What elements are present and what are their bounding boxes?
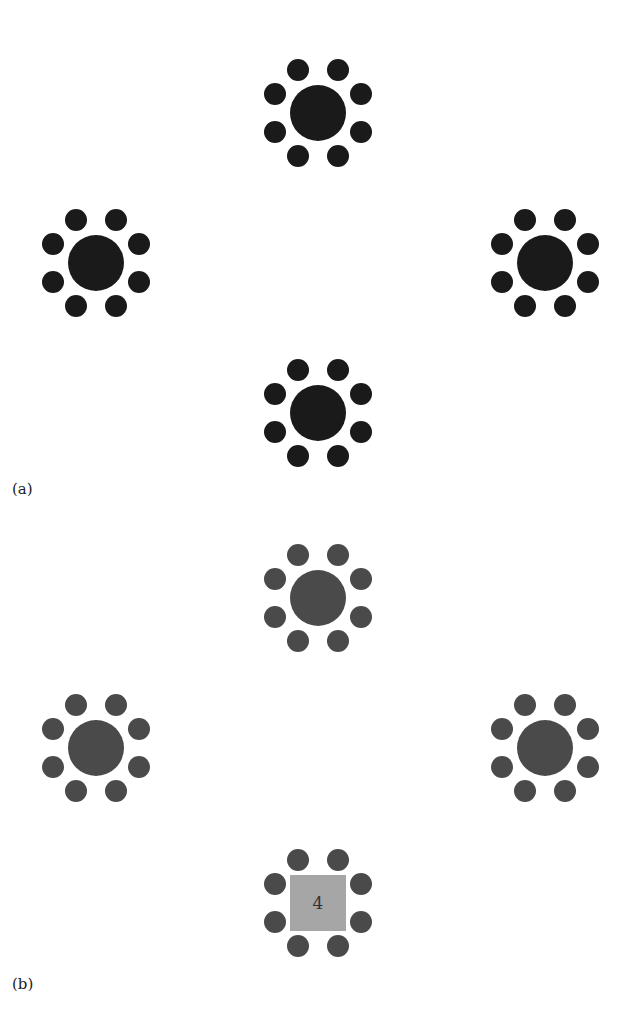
round-table	[290, 385, 346, 441]
seat-icon	[105, 295, 127, 317]
seat-icon	[327, 59, 349, 81]
panel-label: (b)	[12, 975, 33, 993]
seat-icon	[105, 694, 127, 716]
seat-icon	[554, 780, 576, 802]
seat-icon	[327, 935, 349, 957]
seat-icon	[264, 83, 286, 105]
seat-icon	[287, 935, 309, 957]
panel-label: (a)	[12, 480, 33, 498]
seat-icon	[42, 718, 64, 740]
seat-icon	[264, 606, 286, 628]
seat-icon	[554, 295, 576, 317]
table-group-a-bottom	[264, 359, 372, 467]
seat-icon	[264, 911, 286, 933]
table-group-a-left	[42, 209, 150, 317]
round-table	[68, 235, 124, 291]
seat-icon	[287, 630, 309, 652]
seat-icon	[287, 59, 309, 81]
seat-icon	[577, 233, 599, 255]
seat-icon	[350, 83, 372, 105]
seat-icon	[128, 756, 150, 778]
seat-icon	[65, 694, 87, 716]
seat-icon	[42, 756, 64, 778]
seat-icon	[350, 568, 372, 590]
seat-icon	[327, 359, 349, 381]
seat-icon	[65, 295, 87, 317]
seat-icon	[287, 544, 309, 566]
seat-icon	[491, 233, 513, 255]
seat-icon	[514, 209, 536, 231]
seat-icon	[554, 209, 576, 231]
table-group-b-right	[491, 694, 599, 802]
seat-icon	[128, 718, 150, 740]
seat-icon	[327, 544, 349, 566]
seat-icon	[264, 873, 286, 895]
seat-icon	[554, 694, 576, 716]
seat-icon	[350, 606, 372, 628]
seat-icon	[264, 383, 286, 405]
table-group-b-bottom: 4	[264, 849, 372, 957]
seat-icon	[577, 718, 599, 740]
seat-icon	[577, 756, 599, 778]
seat-icon	[350, 383, 372, 405]
seat-icon	[287, 145, 309, 167]
seat-icon	[327, 630, 349, 652]
seat-icon	[350, 911, 372, 933]
table-group-a-right	[491, 209, 599, 317]
seat-icon	[514, 780, 536, 802]
seat-icon	[264, 421, 286, 443]
seat-icon	[105, 209, 127, 231]
seat-icon	[514, 694, 536, 716]
seat-icon	[577, 271, 599, 293]
seat-icon	[491, 718, 513, 740]
round-table	[68, 720, 124, 776]
seat-icon	[327, 849, 349, 871]
seat-icon	[350, 421, 372, 443]
seat-icon	[327, 445, 349, 467]
seat-icon	[350, 873, 372, 895]
seat-icon	[42, 271, 64, 293]
seat-icon	[105, 780, 127, 802]
seating-diagram: (a)4(b)	[0, 0, 637, 1030]
seat-icon	[128, 233, 150, 255]
round-table	[290, 570, 346, 626]
panel-b: 4(b)	[12, 544, 599, 993]
panel-a: (a)	[12, 59, 599, 498]
seat-icon	[128, 271, 150, 293]
seat-icon	[287, 359, 309, 381]
seat-icon	[287, 849, 309, 871]
seat-icon	[327, 145, 349, 167]
seat-icon	[491, 756, 513, 778]
seat-icon	[42, 233, 64, 255]
seat-icon	[65, 780, 87, 802]
table-group-b-left	[42, 694, 150, 802]
table-number: 4	[313, 893, 324, 913]
table-group-a-top	[264, 59, 372, 167]
seat-icon	[65, 209, 87, 231]
round-table	[290, 85, 346, 141]
seat-icon	[350, 121, 372, 143]
round-table	[517, 235, 573, 291]
seat-icon	[514, 295, 536, 317]
seat-icon	[264, 121, 286, 143]
table-group-b-top	[264, 544, 372, 652]
round-table	[517, 720, 573, 776]
seat-icon	[264, 568, 286, 590]
seat-icon	[491, 271, 513, 293]
seat-icon	[287, 445, 309, 467]
